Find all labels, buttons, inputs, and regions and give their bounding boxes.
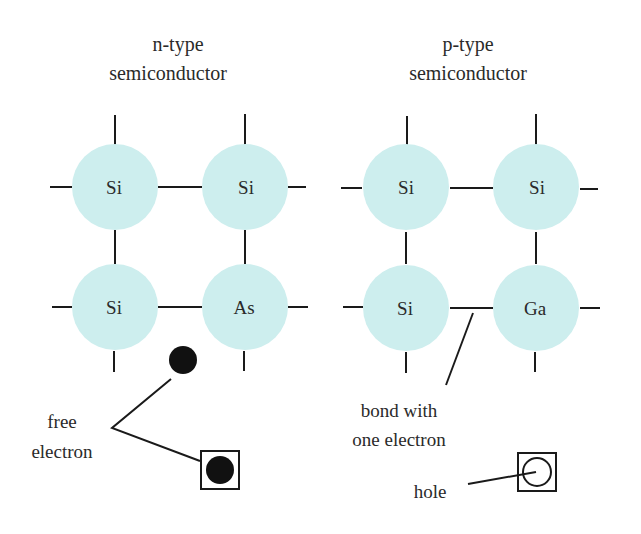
bond-leader-line <box>446 313 473 385</box>
p-type-panel: p-type semiconductor Si Si Si Ga <box>341 33 600 502</box>
atom-label: Si <box>397 298 413 319</box>
atom-label: Si <box>529 177 545 198</box>
free-electron-key-dot <box>206 456 234 484</box>
atom-label: Si <box>106 177 122 198</box>
hole-label: hole <box>414 481 447 502</box>
free-electron-label-line2: electron <box>31 441 93 462</box>
bond-label-line2: one electron <box>352 429 446 450</box>
atom-label: Si <box>106 297 122 318</box>
semiconductor-diagram: n-type semiconductor Si Si Si As <box>0 0 641 534</box>
n-type-title-line2: semiconductor <box>109 62 227 84</box>
n-type-atoms: Si Si Si As <box>72 144 288 350</box>
atom-label: As <box>233 297 254 318</box>
p-type-title-line1: p-type <box>442 33 493 56</box>
free-electron-leader <box>112 379 200 461</box>
free-electron-dot <box>169 346 197 374</box>
p-type-title-line2: semiconductor <box>409 62 527 84</box>
free-electron-label-line1: free <box>47 411 77 432</box>
n-type-title-line1: n-type <box>152 33 203 56</box>
hole-leader-line <box>468 472 536 484</box>
hole-icon <box>523 458 551 486</box>
atom-label: Si <box>238 177 254 198</box>
n-type-panel: n-type semiconductor Si Si Si As <box>31 33 308 489</box>
atom-label: Ga <box>524 298 547 319</box>
bond-label-line1: bond with <box>361 400 438 421</box>
atom-label: Si <box>398 177 414 198</box>
